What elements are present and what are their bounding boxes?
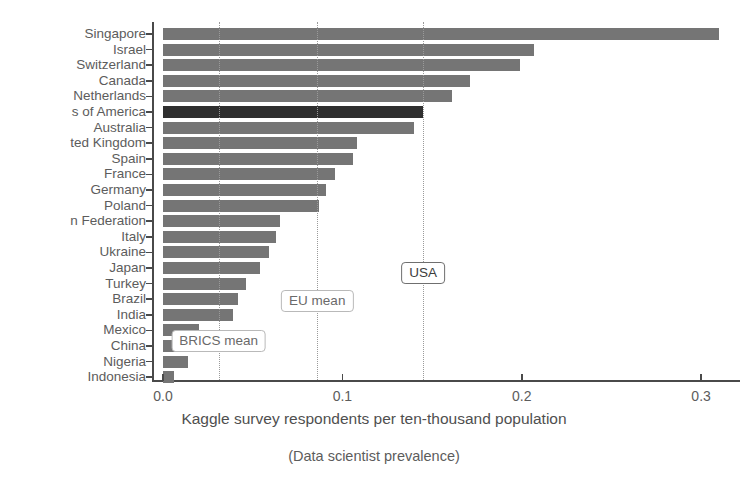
y-axis-tick xyxy=(146,314,153,316)
y-axis-label: Ukraine xyxy=(99,245,146,258)
x-axis-tick-label: 0.1 xyxy=(333,388,352,404)
x-axis-tick xyxy=(342,374,344,381)
y-axis-tick xyxy=(146,111,153,113)
y-axis-tick xyxy=(146,283,153,285)
y-axis-tick xyxy=(146,345,153,347)
y-axis-tick xyxy=(146,189,153,191)
y-axis-tick xyxy=(146,267,153,269)
y-axis-label: Indonesia xyxy=(87,370,146,383)
y-axis-label: Turkey xyxy=(105,277,146,290)
x-axis-tick-label: 0.0 xyxy=(153,388,172,404)
y-axis-tick xyxy=(146,80,153,82)
y-axis-label: Switzerland xyxy=(76,58,146,71)
y-axis-tick xyxy=(146,220,153,222)
y-axis-tick xyxy=(146,33,153,35)
y-axis-tick xyxy=(146,376,153,378)
y-axis-label: Singapore xyxy=(84,27,146,40)
x-axis-tick-label: 0.2 xyxy=(512,388,531,404)
y-axis-label: s of America xyxy=(72,105,146,118)
y-axis-label: Mexico xyxy=(103,323,146,336)
chart-figure: BRICS meanEU meanUSA SingaporeIsraelSwit… xyxy=(0,0,748,486)
y-axis-tick xyxy=(146,361,153,363)
x-axis-tick-label: 0.3 xyxy=(691,388,710,404)
y-axis-label: Spain xyxy=(111,152,146,165)
y-axis-tick xyxy=(146,142,153,144)
y-axis-label: n Federation xyxy=(70,214,146,227)
y-axis-label: Australia xyxy=(93,121,146,134)
y-axis-label: India xyxy=(117,308,146,321)
y-axis-label: Italy xyxy=(121,230,146,243)
x-axis-tick xyxy=(700,374,702,381)
y-axis-label: Poland xyxy=(104,199,146,212)
y-axis-tick xyxy=(146,298,153,300)
y-axis-tick xyxy=(146,205,153,207)
x-axis-tick xyxy=(162,374,164,381)
y-axis-tick xyxy=(146,127,153,129)
y-axis-label: Canada xyxy=(99,74,146,87)
y-axis-tick xyxy=(146,96,153,98)
y-axis-label: Germany xyxy=(90,183,146,196)
x-axis-title: Kaggle survey respondents per ten-thousa… xyxy=(0,410,748,428)
y-axis-label: Nigeria xyxy=(103,355,146,368)
y-axis-label: France xyxy=(104,167,146,180)
y-axis-label: Japan xyxy=(109,261,146,274)
chart-caption: (Data scientist prevalence) xyxy=(0,448,748,464)
y-axis-tick xyxy=(146,64,153,66)
y-axis-label: Brazil xyxy=(112,292,146,305)
y-axis-tick xyxy=(146,174,153,176)
y-axis-tick xyxy=(146,236,153,238)
y-axis-tick xyxy=(146,252,153,254)
y-axis-label: Netherlands xyxy=(73,89,146,102)
y-axis-tick xyxy=(146,330,153,332)
y-axis-tick xyxy=(146,158,153,160)
y-axis-label: ted Kingdom xyxy=(70,136,146,149)
y-axis-label: China xyxy=(111,339,146,352)
y-axis-label: Israel xyxy=(113,43,146,56)
x-axis-tick xyxy=(521,374,523,381)
y-axis-tick xyxy=(146,49,153,51)
